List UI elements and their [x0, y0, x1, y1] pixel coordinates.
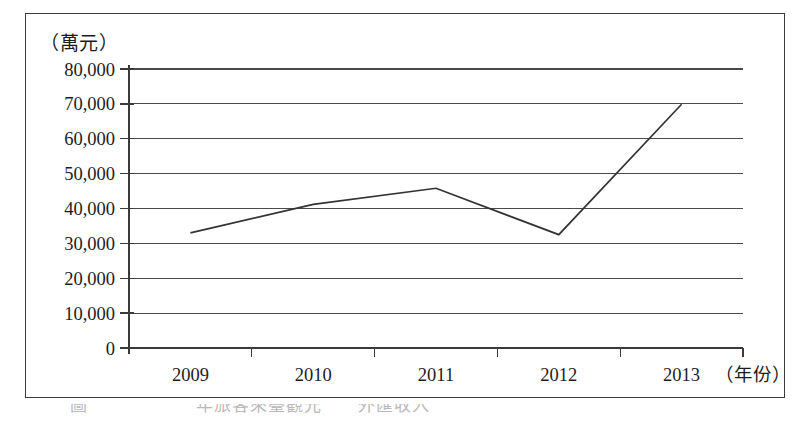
y-axis-tick-label: 70,000 — [64, 94, 115, 114]
x-axis-caption-group: （年份） — [715, 365, 786, 385]
line-chart-plot: 010,00020,00030,00040,00050,00060,00070,… — [26, 14, 786, 399]
gridlines-group — [129, 69, 743, 313]
y-axis-tick-label: 30,000 — [64, 234, 115, 254]
x-axis-tick-label: 2011 — [418, 365, 454, 385]
y-axis-tick-label: 60,000 — [64, 129, 115, 149]
x-axis-tick-label: 2009 — [172, 365, 209, 385]
data-series-line — [190, 104, 681, 234]
y-axis-tick-label: 10,000 — [64, 304, 115, 324]
y-axis-tick-label: 20,000 — [64, 269, 115, 289]
y-axis-tick-labels: 010,00020,00030,00040,00050,00060,00070,… — [64, 60, 115, 359]
x-axis-tick-labels: 20092010201120122013 — [172, 365, 700, 385]
figure-caption-text: 圖 年旅客來臺觀光 外匯收入 — [70, 404, 770, 416]
x-axis-tick-marks — [120, 69, 743, 357]
figure-caption-sliver: 圖 年旅客來臺觀光 外匯收入 — [70, 404, 770, 428]
x-axis-tick-label: 2013 — [663, 365, 700, 385]
y-axis-tick-label: 40,000 — [64, 199, 115, 219]
chart-frame: （萬元） 010,00020,00030,00040,00050,00060,0… — [25, 13, 785, 398]
data-series-group — [190, 104, 681, 234]
y-axis-tick-label: 80,000 — [64, 60, 115, 80]
y-axis-tick-label: 0 — [106, 339, 115, 359]
x-axis-tick-label: 2012 — [540, 365, 577, 385]
x-axis-tick-label: 2010 — [295, 365, 332, 385]
figure-root: （萬元） 010,00020,00030,00040,00050,00060,0… — [0, 0, 802, 429]
axis-lines — [129, 65, 743, 354]
x-axis-caption: （年份） — [715, 365, 786, 385]
y-axis-tick-label: 50,000 — [64, 164, 115, 184]
